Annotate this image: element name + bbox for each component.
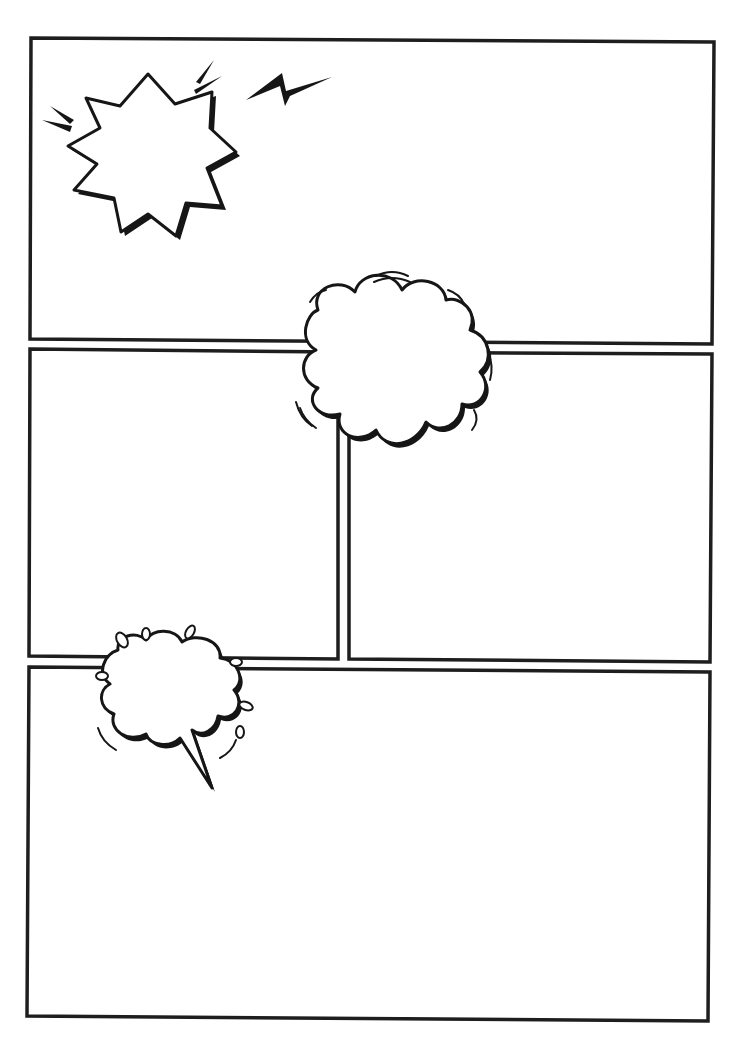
panel-2 [29, 349, 338, 659]
comic-page [0, 0, 751, 1055]
